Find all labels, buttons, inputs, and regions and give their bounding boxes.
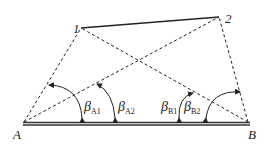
- angle-arcs: [49, 84, 240, 118]
- point-label-a: A: [13, 128, 21, 141]
- angle-label-beta-b1: βB1: [161, 100, 177, 116]
- baseline-ab: [23, 123, 250, 126]
- angle-label-beta-a2: βA2: [118, 100, 135, 116]
- arc-beta-b2: [206, 92, 240, 118]
- line-1-2: [81, 17, 219, 28]
- point-label-2: 2: [225, 12, 232, 25]
- line-b-2: [219, 17, 248, 122]
- arc-beta-a1: [49, 85, 82, 118]
- angle-label-beta-a1: βA1: [84, 100, 101, 116]
- point-label-b: B: [248, 128, 256, 141]
- line-a-1: [24, 28, 81, 122]
- angle-label-beta-b2: βB2: [184, 100, 200, 116]
- sight-lines: [24, 17, 248, 122]
- point-label-1: 1: [73, 22, 80, 35]
